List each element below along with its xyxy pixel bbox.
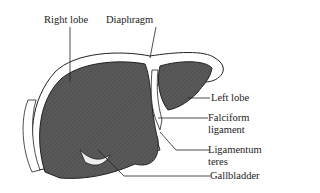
label-falciform-line1: Falciform [208,112,249,123]
label-diaphragm: Diaphragm [106,14,153,25]
label-right-lobe: Right lobe [44,14,88,25]
label-falciform-line2: ligament [208,124,245,135]
left-lobe-shape [158,62,212,110]
label-left-lobe: Left lobe [211,92,249,103]
label-gallbladder: Gallbladder [210,170,260,181]
label-ligamentum-line1: Ligamentum [208,144,262,155]
label-ligamentum-line2: teres [208,156,228,167]
